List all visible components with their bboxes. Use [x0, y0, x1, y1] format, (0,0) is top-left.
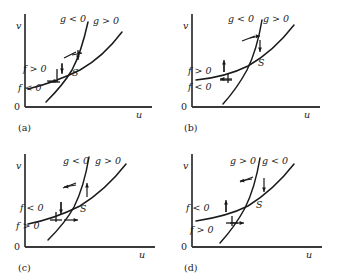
g-tick-upper	[242, 36, 255, 41]
f-nullcline-curve	[196, 164, 294, 221]
panel-b: v u 0 g < 0 g > 0 f > 0 f < 0 S (b)	[170, 0, 339, 140]
f-positive-label: f > 0	[190, 225, 214, 235]
panel-tag-a: (a)	[18, 123, 31, 133]
f-negative-label: f < 0	[186, 203, 210, 213]
panel-d: v u 0 g > 0 g < 0 f < 0 f > 0 S (d)	[170, 140, 339, 280]
arrow-f-upper-vertical	[222, 60, 226, 72]
arrow-g-right-vertical	[85, 183, 89, 197]
equilibrium-label: S	[80, 204, 87, 214]
u-axis-label: u	[136, 110, 142, 120]
g-positive-label: g > 0	[230, 156, 256, 166]
figure-panel-grid: v u 0 g < 0 g > 0 f > 0 f < 0 S (a)	[0, 0, 339, 280]
f-nullcline-curve	[28, 32, 122, 89]
f-positive-label: f > 0	[188, 66, 212, 76]
v-axis-label: v	[183, 21, 188, 31]
v-axis-label: v	[16, 161, 21, 171]
g-negative-label: g < 0	[262, 156, 288, 166]
g-nullcline-curve	[48, 157, 89, 240]
f-positive-label: f > 0	[23, 64, 47, 74]
u-axis-label: u	[304, 110, 310, 120]
f-negative-label: f < 0	[20, 203, 44, 213]
panel-tag-c: (c)	[18, 263, 31, 273]
f-negative-label: f < 0	[18, 83, 42, 93]
g-negative-label: g < 0	[60, 14, 86, 24]
v-axis-label: v	[183, 161, 188, 171]
f-negative-label: f < 0	[188, 82, 212, 92]
origin-label: 0	[181, 102, 187, 112]
arrow-f-upper-vertical	[60, 63, 64, 73]
arrow-g-right-vertical	[258, 40, 262, 52]
u-axis-label: u	[306, 250, 312, 260]
panel-tag-b: (b)	[184, 123, 198, 133]
g-positive-label: g > 0	[93, 16, 119, 26]
g-nullcline-curve	[46, 22, 88, 102]
f-positive-label: f > 0	[16, 221, 40, 231]
arrow-g-right-vertical	[262, 178, 266, 192]
equilibrium-label: S	[258, 58, 265, 68]
f-nullcline-curve	[28, 164, 126, 224]
panel-a: v u 0 g < 0 g > 0 f > 0 f < 0 S (a)	[0, 0, 170, 140]
g-negative-label: g < 0	[228, 14, 254, 24]
equilibrium-label: S	[256, 200, 263, 210]
g-negative-label: g < 0	[63, 156, 89, 166]
arrow-f-upper-vertical	[224, 200, 228, 212]
g-positive-label: g > 0	[263, 14, 289, 24]
u-axis-label: u	[139, 250, 145, 260]
arrow-f-upper-vertical	[59, 202, 63, 214]
origin-label: 0	[181, 242, 187, 252]
g-nullcline-curve	[223, 20, 262, 104]
panel-tag-d: (d)	[184, 263, 198, 273]
panel-c: v u 0 g < 0 g > 0 f < 0 f > 0 S (c)	[0, 140, 170, 280]
equilibrium-label: S	[72, 68, 79, 78]
origin-label: 0	[14, 102, 20, 112]
origin-label: 0	[14, 242, 20, 252]
v-axis-label: v	[16, 21, 21, 31]
g-positive-label: g > 0	[95, 156, 121, 166]
